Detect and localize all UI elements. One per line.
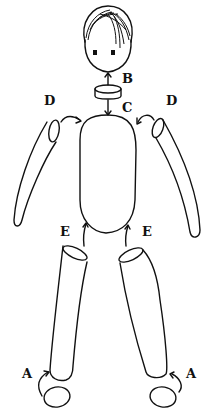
left-foot: [42, 385, 71, 409]
head: [84, 6, 132, 72]
arrow-e-left: [84, 224, 86, 246]
right-eye: [111, 50, 115, 55]
neck: [95, 85, 121, 99]
right-leg: [117, 245, 167, 378]
label-a-right: A: [185, 366, 197, 381]
arrow-e-right: [126, 226, 128, 246]
label-d-left: D: [44, 93, 55, 108]
right-arm: [150, 117, 200, 237]
label-a-left: A: [21, 366, 33, 381]
label-e-left: E: [60, 224, 70, 239]
doll-diagram: B C D D E E A: [0, 0, 210, 414]
right-foot: [148, 385, 177, 409]
label-d-right: D: [166, 93, 177, 108]
arrow-d-right: [138, 115, 154, 122]
label-b: B: [122, 71, 133, 86]
label-c: C: [122, 100, 132, 115]
left-eye: [93, 50, 97, 55]
arrow-a-right: [172, 374, 181, 392]
left-arm: [14, 119, 61, 226]
left-leg: [50, 243, 89, 381]
label-e-right: E: [142, 224, 152, 239]
torso: [80, 115, 136, 233]
